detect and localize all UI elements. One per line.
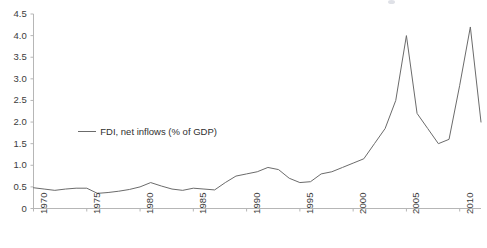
legend-label: FDI, net inflows (% of GDP) (100, 126, 217, 137)
y-tick-label: 3.5 (3, 51, 27, 62)
x-tick-label: 1975 (91, 192, 102, 214)
chart-container: 00.51.01.52.02.53.03.54.04.5 19701975198… (0, 0, 487, 248)
x-tick-label: 1985 (197, 192, 208, 214)
chart-legend: FDI, net inflows (% of GDP) (78, 126, 217, 137)
series-line-fdi-net-inflows (34, 27, 482, 193)
x-tick-label: 1995 (304, 192, 315, 214)
x-tick-label: 2000 (357, 192, 368, 214)
y-tick-label: 0 (3, 203, 27, 214)
y-tick-label: 1.0 (3, 159, 27, 170)
y-tick-label: 2.0 (3, 116, 27, 127)
x-tick-label: 1970 (38, 192, 49, 214)
y-tick-label: 0.5 (3, 181, 27, 192)
x-tick-label: 2010 (464, 192, 475, 214)
y-tick-label: 3.0 (3, 73, 27, 84)
y-tick-label: 4.5 (3, 8, 27, 19)
x-tick-label: 1980 (144, 192, 155, 214)
x-tick-label: 2005 (410, 192, 421, 214)
legend-line-swatch (78, 131, 96, 132)
y-tick-label: 2.5 (3, 94, 27, 105)
y-tick-label: 4.0 (3, 30, 27, 41)
x-tick-label: 1990 (251, 192, 262, 214)
y-tick-label: 1.5 (3, 138, 27, 149)
